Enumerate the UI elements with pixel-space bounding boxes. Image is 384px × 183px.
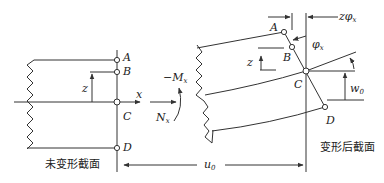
label-u0: u0 (204, 158, 216, 172)
label-D-undeformed: D (122, 141, 132, 154)
deformed-point-A (281, 29, 286, 34)
label-x-axis: x (136, 88, 143, 101)
label-moment: −Mx (163, 71, 187, 85)
rotation-arc (350, 58, 354, 69)
label-A-deformed: A (269, 21, 278, 34)
moment-arrow (174, 88, 181, 121)
label-z-phi: zφx (338, 10, 357, 24)
point-D (114, 145, 119, 150)
label-phi: φx (312, 38, 324, 52)
label-B-undeformed: B (122, 65, 131, 78)
caption-deformed: 变形后截面 (320, 140, 375, 154)
label-z-undeformed: z (81, 82, 88, 95)
phi-arrow (293, 36, 306, 40)
deformed-point-B (289, 44, 294, 49)
label-C-undeformed: C (123, 110, 132, 123)
label-D-deformed: D (325, 114, 335, 127)
label-w0: w0 (350, 82, 364, 96)
break-line-left (27, 60, 34, 149)
tangent-line-at-C (306, 52, 356, 71)
deformed-top-edge (197, 32, 284, 48)
undeformed-beam (14, 50, 140, 172)
point-A (114, 57, 119, 62)
deformed-point-C (303, 68, 309, 74)
point-C (114, 99, 120, 105)
label-B-deformed: B (282, 51, 291, 64)
beam-deformation-diagram: A B C D z x 未变形截面 −Mx Nx (0, 0, 384, 183)
point-B (114, 69, 119, 74)
label-C-deformed: C (294, 78, 303, 91)
label-z-deformed: z (246, 56, 253, 69)
deformed-point-D (322, 104, 327, 109)
deformed-bottom-edge (212, 107, 325, 131)
label-axial-force: Nx (155, 111, 170, 125)
deformed-neutral-axis (205, 71, 306, 95)
caption-undeformed: 未变形截面 (45, 157, 100, 171)
label-A-undeformed: A (122, 51, 131, 64)
